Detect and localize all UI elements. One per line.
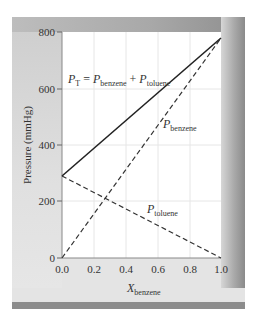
svg-text:600: 600 [39,83,56,95]
svg-text:0.0: 0.0 [55,263,69,275]
x-tick-labels: 0.0 0.2 0.4 0.6 0.8 1.0 [55,263,228,275]
svg-text:0.6: 0.6 [151,263,165,275]
svg-text:1.0: 1.0 [214,263,228,275]
chart-plot: PT = Pbenzene + Ptoluene Pbenzene Ptolue… [0,0,257,323]
y-tick-labels: 800 600 400 200 0 [39,26,56,264]
svg-text:800: 800 [39,26,56,38]
x-axis-label: Xbenzene [126,281,161,297]
svg-text:200: 200 [39,195,56,207]
y-axis-label: Pressure (mmHg) [21,106,34,184]
y-ticks [57,32,62,258]
svg-text:400: 400 [39,139,56,151]
svg-text:0.8: 0.8 [183,263,197,275]
svg-text:0.4: 0.4 [119,263,133,275]
svg-text:0.2: 0.2 [87,263,101,275]
